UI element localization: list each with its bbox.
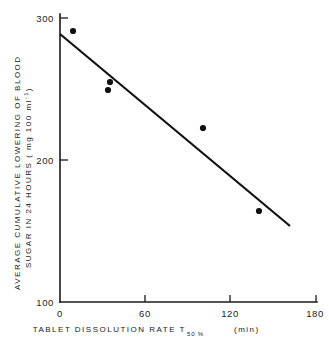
chart-figure: 300 200 100 0 60 120 180 AVERAGE CUMULAT…	[0, 0, 329, 347]
x-tick-label-0: 0	[57, 308, 63, 319]
data-point	[105, 87, 111, 93]
x-axis-title-group: TABLET DISSOLUTION RATE T 50 % (min)	[33, 325, 260, 337]
svg-text:SUGAR IN 24 HOURS ( mg 10: SUGAR IN 24 HOURS ( mg 100 ml-1)	[23, 87, 33, 268]
y-tick-label-100: 100	[36, 297, 54, 308]
data-point	[200, 125, 206, 131]
x-axis-title: TABLET DISSOLUTION RATE T	[33, 325, 186, 334]
data-point	[70, 28, 76, 34]
y-tick-label-300: 300	[36, 13, 54, 24]
x-tick-label-60: 60	[139, 308, 151, 319]
svg-text:TABLET DISSOLUTION RATE T: TABLET DISSOLUTION RATE T	[33, 325, 186, 334]
y-axis-title-line2-group: SUGAR IN 24 HOURS ( mg 100 ml-1)	[23, 87, 33, 268]
x-tick-label-120: 120	[221, 308, 239, 319]
data-point-group	[70, 28, 262, 214]
x-axis-title-subscript: 50 %	[187, 331, 204, 337]
x-axis-title-units: (min)	[234, 325, 260, 334]
x-tick-label-180: 180	[306, 308, 324, 319]
regression-line	[60, 34, 290, 226]
data-point	[107, 79, 113, 85]
y-axis-title-line1: AVERAGE CUMULATIVE LOWERING OF BLOOD	[13, 55, 22, 290]
data-point	[256, 208, 262, 214]
y-axis-title-line2-end: )	[24, 87, 33, 91]
x-axis-ticks	[145, 295, 316, 302]
y-axis-title-line2: SUGAR IN 24 HOURS ( mg 100 ml	[24, 99, 33, 268]
y-tick-label-200: 200	[36, 155, 54, 166]
y-axis-title-line2-sup: -1	[23, 91, 29, 99]
scatter-plot: 300 200 100 0 60 120 180 AVERAGE CUMULAT…	[0, 0, 329, 347]
